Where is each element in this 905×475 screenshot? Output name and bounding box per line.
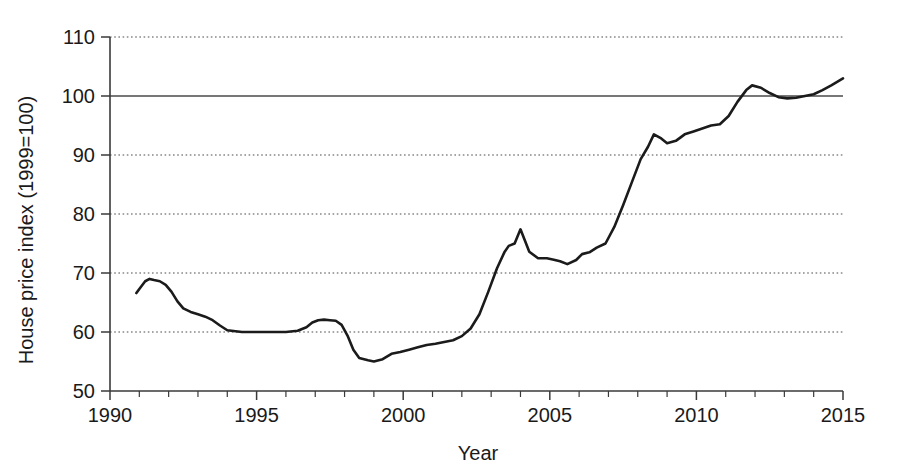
x-axis-title: Year <box>458 442 499 464</box>
x-axis <box>110 391 843 400</box>
y-tick-label-80: 80 <box>73 203 95 225</box>
x-tick-label-2000: 2000 <box>381 404 426 426</box>
y-tick-label-110: 110 <box>63 26 95 48</box>
y-axis-title: House price index (1999=100) <box>15 96 37 365</box>
x-tick-label-2010: 2010 <box>674 404 719 426</box>
chart-canvas: 5060708090100110 19901995200020052010201… <box>0 0 905 475</box>
x-tick-label-2005: 2005 <box>528 404 573 426</box>
y-tick-label-100: 100 <box>62 85 95 107</box>
x-tick-labels: 199019952000200520102015 <box>88 404 866 426</box>
x-tick-label-2015: 2015 <box>821 404 866 426</box>
y-tick-label-60: 60 <box>73 321 95 343</box>
y-tick-label-90: 90 <box>73 144 95 166</box>
series-line-house-price-index <box>136 78 843 361</box>
y-tick-labels: 5060708090100110 <box>62 26 95 402</box>
x-tick-label-1990: 1990 <box>88 404 133 426</box>
house-price-index-chart: 5060708090100110 19901995200020052010201… <box>0 0 905 475</box>
gridlines-group <box>110 37 843 332</box>
y-tick-label-50: 50 <box>73 380 95 402</box>
y-axis <box>101 37 110 391</box>
y-tick-label-70: 70 <box>73 262 95 284</box>
x-tick-label-1995: 1995 <box>234 404 279 426</box>
